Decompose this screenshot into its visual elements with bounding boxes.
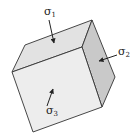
sigma2-label: σ2 [118,45,130,59]
sigma1-label: σ1 [44,5,56,19]
stress-cube-diagram: σ1 σ2 σ3 [0,0,138,136]
